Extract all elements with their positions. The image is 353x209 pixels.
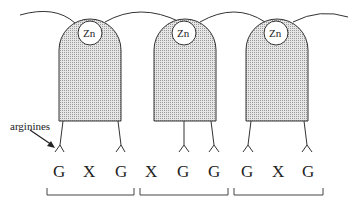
arginines-label: arginines [10, 121, 50, 132]
base-2: X [83, 163, 95, 180]
finger-2-zn-label: Zn [177, 28, 189, 39]
linker-arc-1-2 [105, 12, 180, 22]
base-4: X [145, 163, 157, 180]
finger-3-zn-label: Zn [269, 28, 281, 39]
base-5: G [177, 163, 189, 180]
linker-arc-2-3 [200, 12, 265, 22]
arginine-side-chains [55, 121, 312, 152]
linker-arc-left [20, 11, 75, 23]
base-3: G [115, 163, 127, 180]
triplet-brackets [47, 188, 323, 195]
base-1: G [53, 163, 65, 180]
base-7: G [241, 163, 253, 180]
linker-arc-right [293, 13, 348, 22]
finger-1-zn-label: Zn [83, 28, 95, 39]
arginines-arrow [30, 130, 52, 145]
base-6: G [208, 163, 220, 180]
base-8: X [272, 163, 284, 180]
base-9: G [302, 163, 314, 180]
zinc-finger-diagram: Zn Zn Zn arginines G X G X G G G X G [0, 0, 353, 209]
